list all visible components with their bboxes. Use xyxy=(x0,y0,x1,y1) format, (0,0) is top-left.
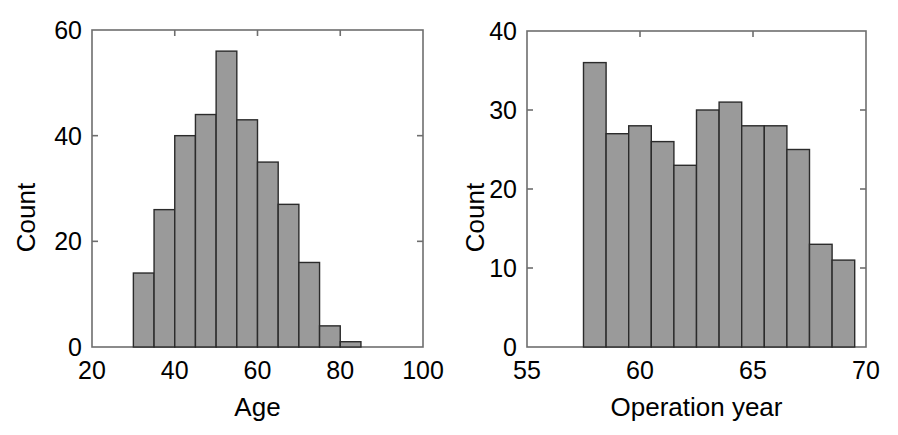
x-tick-label: 70 xyxy=(852,356,880,384)
histogram-bar xyxy=(606,134,629,347)
histogram-bar xyxy=(299,262,320,347)
x-tick-label: 65 xyxy=(739,356,767,384)
age-y-axis-label: Count xyxy=(6,0,46,435)
histogram-bar xyxy=(195,115,216,347)
x-tick-label: 60 xyxy=(626,356,654,384)
histogram-bar xyxy=(629,126,652,347)
histogram-bar xyxy=(764,126,787,347)
y-tick-label: 20 xyxy=(54,227,82,255)
y-tick-label: 40 xyxy=(54,122,82,150)
histogram-bar xyxy=(742,126,765,347)
x-tick-label: 100 xyxy=(402,356,444,384)
operation-year-y-axis-label: Count xyxy=(455,0,495,435)
x-tick-label: 20 xyxy=(78,356,106,384)
histogram-bar xyxy=(651,142,674,347)
histogram-bar xyxy=(697,110,720,347)
histogram-bar xyxy=(719,102,742,347)
histogram-bar xyxy=(320,326,341,347)
y-tick-label: 60 xyxy=(54,16,82,44)
x-tick-label: 40 xyxy=(161,356,189,384)
histogram-bar xyxy=(154,210,175,347)
histogram-bar xyxy=(584,63,607,347)
histogram-bar xyxy=(278,204,299,347)
histogram-bar xyxy=(810,244,833,347)
histogram-bar xyxy=(175,136,196,347)
histogram-bar xyxy=(340,342,361,347)
chart-panel-operation-year: 01020304055606570 Count Operation year xyxy=(449,0,898,435)
histogram-bar xyxy=(832,260,855,347)
age-ylabel-container: Count xyxy=(6,0,46,435)
age-histogram-plot: 020406020406080100 xyxy=(0,0,449,435)
operation-year-ylabel-container: Count xyxy=(455,0,495,435)
operation-year-histogram-plot: 01020304055606570 xyxy=(449,0,898,435)
histogram-bar xyxy=(787,150,810,348)
histogram-bar xyxy=(216,51,237,347)
histogram-bar xyxy=(133,273,154,347)
x-tick-label: 55 xyxy=(513,356,541,384)
histogram-bar xyxy=(674,165,697,347)
x-tick-label: 80 xyxy=(326,356,354,384)
x-tick-label: 60 xyxy=(244,356,272,384)
histogram-bar xyxy=(237,120,258,347)
histogram-bar xyxy=(258,162,279,347)
figure-histograms: 020406020406080100 Count Age 01020304055… xyxy=(0,0,898,435)
chart-panel-age: 020406020406080100 Count Age xyxy=(0,0,449,435)
